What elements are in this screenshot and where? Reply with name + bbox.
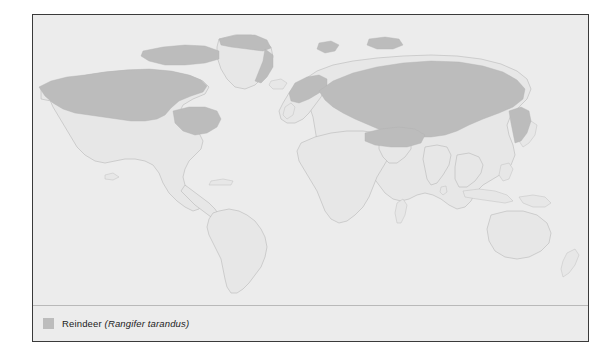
distribution-map-figure: Reindeer (Rangifer tarandus): [32, 14, 589, 342]
world-map-panel: [33, 15, 588, 305]
legend-scientific-name: (Rangifer tarandus): [105, 318, 190, 329]
legend-common-name: Reindeer: [62, 318, 102, 329]
range-arctic-islands: [367, 37, 403, 49]
legend-label: Reindeer (Rangifer tarandus): [62, 318, 189, 329]
world-map-svg: [33, 15, 588, 305]
legend-color-swatch: [43, 318, 54, 329]
map-legend: Reindeer (Rangifer tarandus): [33, 306, 588, 341]
